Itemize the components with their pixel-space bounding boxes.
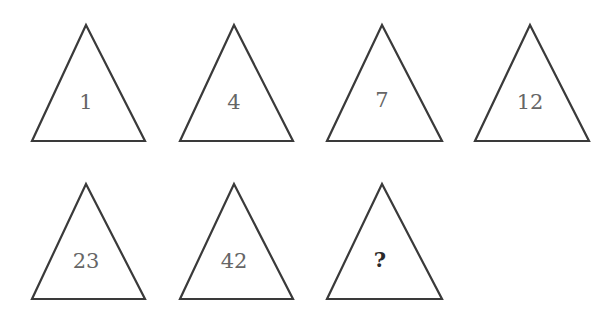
- triangle-6-value: 42: [194, 249, 274, 273]
- triangle-4-shape: [475, 25, 589, 141]
- triangle-5-value: 23: [46, 249, 126, 273]
- triangle-2-value: 4: [194, 90, 274, 114]
- triangle-4-value: 12: [490, 90, 570, 114]
- triangle-7-shape: [327, 184, 442, 299]
- triangle-2-shape: [180, 25, 293, 141]
- triangle-puzzle-diagram: [0, 0, 614, 322]
- triangle-5-shape: [32, 184, 145, 299]
- triangle-1-shape: [32, 25, 145, 141]
- triangle-3-value: 7: [342, 88, 422, 112]
- triangle-3-shape: [327, 25, 442, 141]
- triangle-6-shape: [180, 184, 293, 299]
- triangle-1-value: 1: [46, 90, 126, 114]
- unknown-value-question-mark: ?: [340, 248, 420, 272]
